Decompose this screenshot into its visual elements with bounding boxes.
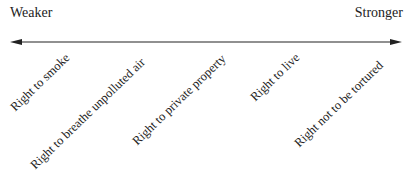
right-arrowhead-icon [390,39,402,45]
left-arrowhead-icon [10,39,22,45]
